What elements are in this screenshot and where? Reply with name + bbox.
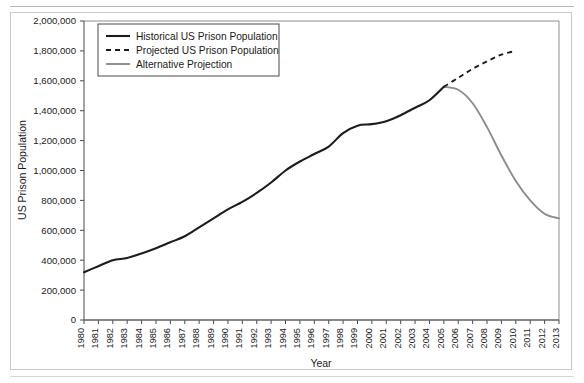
x-axis-title: Year [310,357,332,369]
x-tick-label: 1998 [335,328,345,348]
x-tick-label: 1999 [349,328,359,348]
x-tick-label: 1991 [234,328,244,348]
y-tick-label: 1,400,000 [33,105,76,116]
x-tick-label: 2010 [508,328,518,348]
x-tick-label: 2000 [364,328,374,348]
x-tick-label: 1985 [148,328,158,348]
y-tick-label: 1,800,000 [33,45,76,56]
x-tick-label: 1983 [119,328,129,348]
x-tick-label: 2003 [407,328,417,348]
x-tick-label: 1996 [306,328,316,348]
x-tick-label: 2011 [522,328,532,348]
x-tick-label: 1997 [321,328,331,348]
x-axis-ticks: 1980198119821983198419851986198719881989… [76,320,561,348]
y-tick-label: 1,000,000 [33,165,76,176]
y-axis-ticks: 0200,000400,000600,000800,0001,000,0001,… [33,15,84,325]
series-line-alternative-projection [444,87,559,219]
y-tick-label: 0 [71,314,76,325]
x-tick-label: 1995 [292,328,302,348]
x-tick-label: 2004 [421,328,431,348]
x-tick-label: 1990 [220,328,230,348]
x-tick-label: 1989 [206,328,216,348]
x-tick-label: 1982 [105,328,115,348]
y-tick-label: 600,000 [41,225,76,236]
y-axis-title: US Prison Population [16,120,28,220]
x-tick-label: 2013 [551,328,561,348]
chart-svg: 0200,000400,000600,000800,0001,000,0001,… [0,0,584,383]
x-tick-label: 2005 [436,328,446,348]
legend-label-alternative: Alternative Projection [136,59,232,70]
y-tick-label: 800,000 [41,195,76,206]
series-line-projected [444,51,516,87]
x-tick-label: 1993 [263,328,273,348]
x-tick-label: 1987 [177,328,187,348]
y-tick-label: 2,000,000 [33,15,76,26]
legend-label-projected: Projected US Prison Population [136,45,279,56]
x-tick-label: 2006 [450,328,460,348]
x-tick-label: 2008 [479,328,489,348]
x-tick-label: 1981 [90,328,100,348]
x-tick-label: 1988 [191,328,201,348]
x-tick-label: 1994 [278,328,288,348]
chart-legend: Historical US Prison Population Projecte… [98,24,279,76]
x-tick-label: 2001 [378,328,388,348]
x-tick-label: 2012 [537,328,547,348]
y-tick-label: 400,000 [41,255,76,266]
y-tick-label: 200,000 [41,285,76,296]
prison-population-chart: 0200,000400,000600,000800,0001,000,0001,… [0,0,584,383]
x-tick-label: 1980 [76,328,86,348]
x-tick-label: 2007 [465,328,475,348]
x-tick-label: 2002 [393,328,403,348]
x-tick-label: 1984 [134,328,144,348]
x-tick-label: 1986 [162,328,172,348]
x-tick-label: 2009 [493,328,503,348]
y-tick-label: 1,600,000 [33,75,76,86]
page-root: 0200,000400,000600,000800,0001,000,0001,… [0,0,584,383]
y-tick-label: 1,200,000 [33,135,76,146]
x-tick-label: 1992 [249,328,259,348]
series-line-historical [84,87,444,272]
legend-label-historical: Historical US Prison Population [136,31,278,42]
